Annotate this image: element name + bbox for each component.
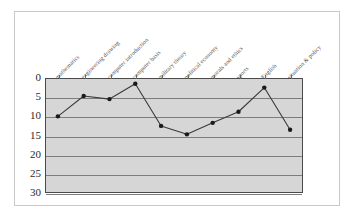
data-point-9[interactable] — [288, 128, 292, 132]
y-tick-label-20: 20 — [30, 149, 41, 160]
x-axis-label-group: mathematicsengineering drawingcomputer i… — [0, 0, 353, 78]
data-point-4[interactable] — [159, 124, 163, 128]
y-axis-label-group: 051015202530 — [0, 0, 45, 217]
x-category-label-8: English — [260, 62, 276, 78]
data-point-0[interactable] — [56, 114, 60, 118]
y-tick-label-25: 25 — [30, 168, 41, 179]
y-tick-label-5: 5 — [36, 91, 42, 102]
data-point-1[interactable] — [82, 94, 86, 98]
gridline-30 — [46, 194, 302, 195]
x-category-label-0: mathematics — [54, 54, 78, 78]
series-line — [58, 84, 290, 135]
data-point-8[interactable] — [262, 85, 266, 89]
y-tick-label-30: 30 — [30, 187, 41, 198]
data-point-3[interactable] — [133, 82, 137, 86]
x-category-label-9: situation & policy — [286, 44, 320, 78]
line-series — [45, 78, 303, 193]
x-category-label-7: sports — [234, 65, 247, 78]
chart-page: mathematicsengineering drawingcomputer i… — [0, 0, 353, 217]
y-tick-label-15: 15 — [30, 130, 41, 141]
y-tick-label-10: 10 — [30, 110, 41, 121]
data-point-7[interactable] — [236, 110, 240, 114]
y-tick-label-0: 0 — [36, 72, 42, 83]
data-point-2[interactable] — [107, 97, 111, 101]
data-point-6[interactable] — [211, 121, 215, 125]
data-point-5[interactable] — [185, 132, 189, 136]
